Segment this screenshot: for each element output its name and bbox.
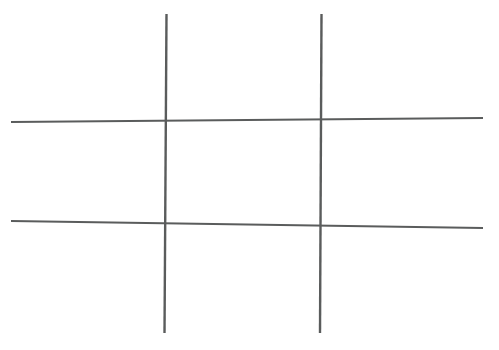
cell-hitboxes[interactable] <box>0 0 499 350</box>
cell-5 <box>166 121 321 224</box>
grid-svg <box>0 0 499 350</box>
cell-7 <box>0 224 166 350</box>
cell-9 <box>321 224 499 350</box>
cell-1 <box>0 0 166 121</box>
tic-tac-toe-board[interactable] <box>0 0 499 350</box>
cell-3 <box>321 0 499 121</box>
cell-4 <box>0 121 166 224</box>
cell-6 <box>321 121 499 224</box>
cell-2 <box>166 0 321 121</box>
cell-8 <box>166 224 321 350</box>
